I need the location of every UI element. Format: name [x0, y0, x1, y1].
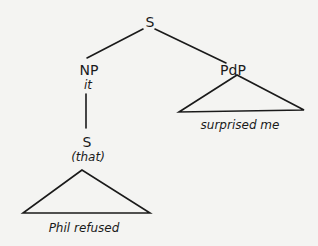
root-s-label: S	[146, 14, 155, 30]
triangle-embedded-s	[23, 170, 150, 213]
np-label: NP	[80, 62, 99, 78]
triangle-text-phil-refused: Phil refused	[49, 221, 120, 235]
syntax-tree-diagram: S NP it S (that) Phil refused PdP surpri…	[0, 0, 318, 246]
np-word-it: it	[84, 78, 93, 92]
edge-root-pdp	[155, 29, 226, 63]
edge-root-np	[87, 29, 143, 58]
triangle-text-surprised-me: surprised me	[201, 118, 280, 132]
pdp-label: PdP	[220, 62, 246, 78]
triangle-pdp	[179, 75, 304, 112]
embedded-s-label: S	[83, 134, 92, 150]
embedded-s-word-that: (that)	[71, 150, 105, 164]
tree-svg: S NP it S (that) Phil refused PdP surpri…	[0, 0, 318, 246]
